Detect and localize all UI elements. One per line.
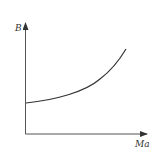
b-vs-ma-curve [26,49,126,103]
diagram-figure: B Ma [0,0,162,154]
x-axis-label: Ma [134,139,150,149]
y-axis-label: B [14,23,22,33]
diagram-canvas: B Ma [0,0,162,154]
